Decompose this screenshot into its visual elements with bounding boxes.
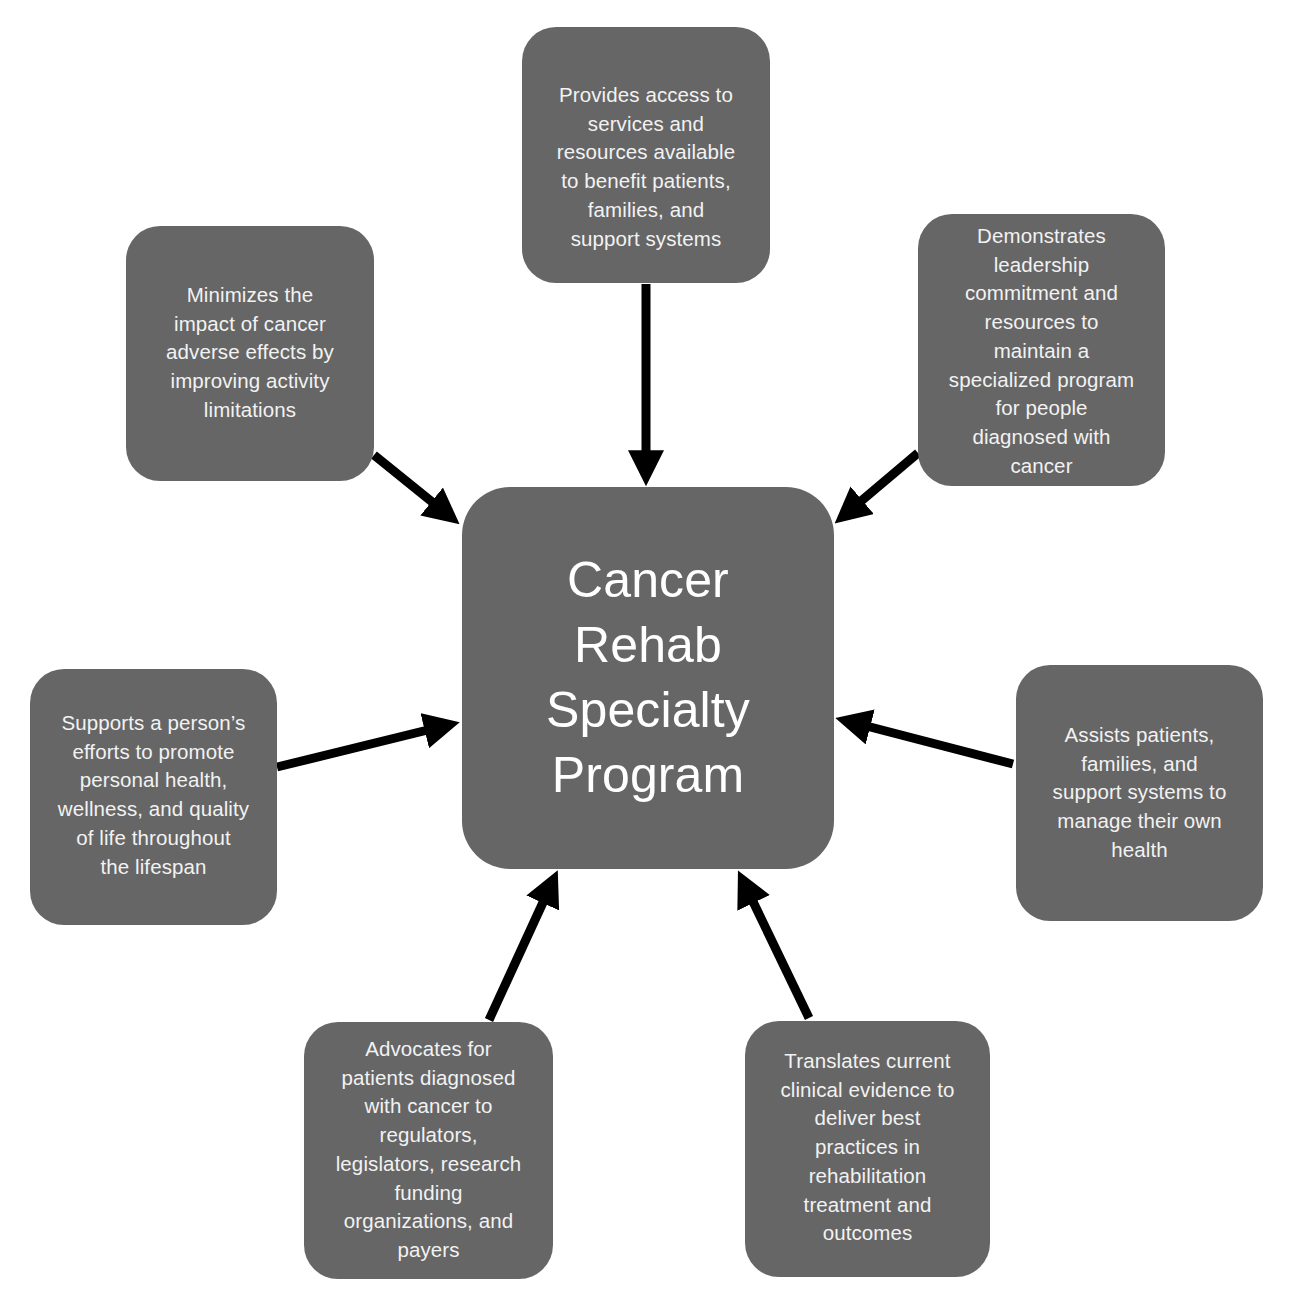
node-line: the lifespan — [58, 853, 249, 882]
node-line: Minimizes the — [166, 281, 334, 310]
node-line: to benefit patients, — [557, 167, 736, 196]
node-line: rehabilitation — [780, 1162, 954, 1191]
center-line: Rehab — [546, 613, 750, 678]
node-line: wellness, and quality — [58, 795, 249, 824]
node-line: health — [1053, 836, 1227, 865]
node-line: practices in — [780, 1133, 954, 1162]
node-bottom-left: Advocates for patients diagnosed with ca… — [304, 1022, 553, 1279]
arrow-left-to-center — [277, 726, 444, 767]
node-bottom-right: Translates current clinical evidence to … — [745, 1021, 990, 1277]
node-line: support systems to — [1053, 778, 1227, 807]
node-line: services and — [557, 110, 736, 139]
arrow-right-to-center — [851, 722, 1013, 764]
node-left-text: Supports a person’s efforts to promote p… — [58, 709, 249, 881]
center-node: Cancer Rehab Specialty Program — [462, 487, 834, 869]
node-line: regulators, — [336, 1121, 522, 1150]
node-line: resources to — [949, 308, 1134, 337]
node-line: legislators, research — [336, 1150, 522, 1179]
node-line: personal health, — [58, 766, 249, 795]
node-line: support systems — [557, 225, 736, 254]
node-line: efforts to promote — [58, 738, 249, 767]
node-line: cancer — [949, 452, 1134, 481]
node-line: Assists patients, — [1053, 721, 1227, 750]
node-left: Supports a person’s efforts to promote p… — [30, 669, 277, 925]
node-line: with cancer to — [336, 1092, 522, 1121]
node-line: deliver best — [780, 1104, 954, 1133]
node-line: limitations — [166, 396, 334, 425]
node-line: specialized program — [949, 366, 1134, 395]
center-line: Specialty — [546, 678, 750, 743]
node-line: diagnosed with — [949, 423, 1134, 452]
center-node-text: Cancer Rehab Specialty Program — [546, 548, 750, 808]
arrow-bottom-left-to-center — [489, 885, 551, 1020]
node-line: manage their own — [1053, 807, 1227, 836]
center-line: Program — [546, 743, 750, 808]
node-line: of life throughout — [58, 824, 249, 853]
node-line: payers — [336, 1236, 522, 1265]
node-line: outcomes — [780, 1219, 954, 1248]
node-line: organizations, and — [336, 1207, 522, 1236]
node-line: clinical evidence to — [780, 1076, 954, 1105]
node-line: improving activity — [166, 367, 334, 396]
arrow-top-right-to-center — [847, 453, 918, 513]
node-right: Assists patients, families, and support … — [1016, 665, 1263, 921]
arrow-top-left-to-center — [374, 455, 447, 514]
node-line: families, and — [1053, 750, 1227, 779]
node-line: Demonstrates — [949, 222, 1134, 251]
node-line: maintain a — [949, 337, 1134, 366]
node-top-left-text: Minimizes the impact of cancer adverse e… — [166, 281, 334, 425]
node-line: patients diagnosed — [336, 1064, 522, 1093]
node-line: funding — [336, 1179, 522, 1208]
node-line: families, and — [557, 196, 736, 225]
node-line: Provides access to — [557, 81, 736, 110]
node-line: treatment and — [780, 1191, 954, 1220]
node-line: adverse effects by — [166, 338, 334, 367]
node-top: Provides access to services and resource… — [522, 27, 770, 283]
node-line: Translates current — [780, 1047, 954, 1076]
node-bottom-left-text: Advocates for patients diagnosed with ca… — [336, 1035, 522, 1265]
node-line: commitment and — [949, 279, 1134, 308]
node-top-left: Minimizes the impact of cancer adverse e… — [126, 226, 374, 481]
node-bottom-right-text: Translates current clinical evidence to … — [780, 1047, 954, 1248]
node-top-text: Provides access to services and resource… — [557, 81, 736, 253]
node-line: resources available — [557, 138, 736, 167]
node-line: Supports a person’s — [58, 709, 249, 738]
node-top-right-text: Demonstrates leadership commitment and r… — [949, 222, 1134, 480]
arrow-bottom-right-to-center — [745, 885, 809, 1018]
node-line: impact of cancer — [166, 310, 334, 339]
node-line: for people — [949, 394, 1134, 423]
node-right-text: Assists patients, families, and support … — [1053, 721, 1227, 865]
center-line: Cancer — [546, 548, 750, 613]
node-line: leadership — [949, 251, 1134, 280]
node-top-right: Demonstrates leadership commitment and r… — [918, 214, 1165, 486]
node-line: Advocates for — [336, 1035, 522, 1064]
